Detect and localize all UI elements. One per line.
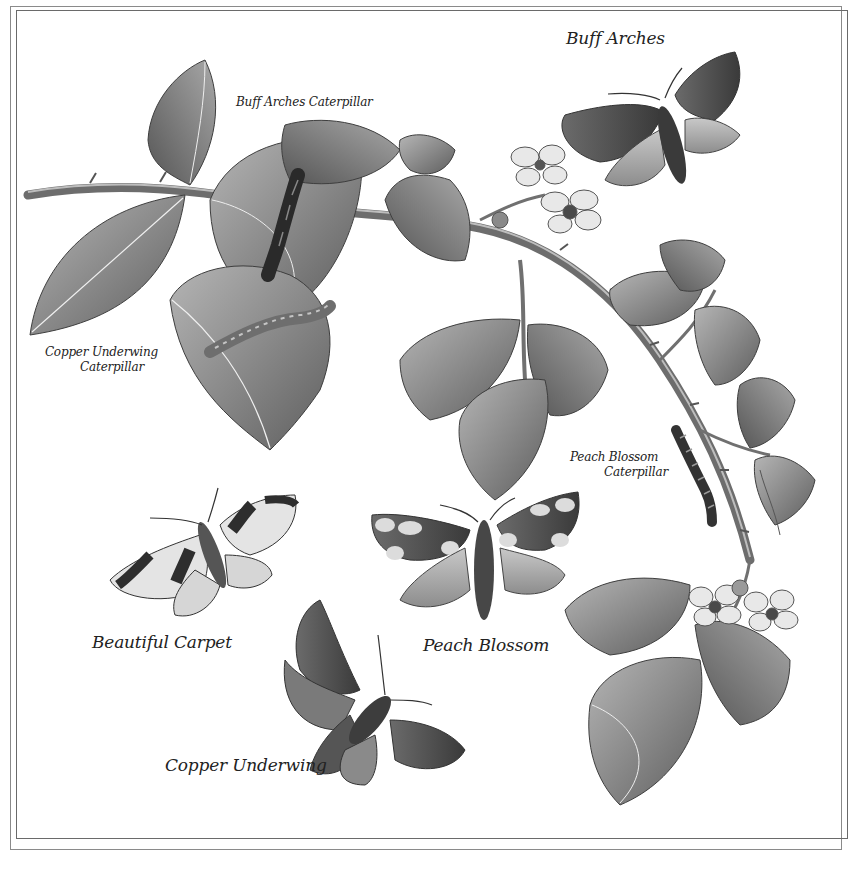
bramble-leaves — [30, 60, 815, 805]
peach-blossom-moth — [372, 492, 579, 620]
label-peach-blossom-caterpillar: Peach Blossom Caterpillar — [570, 450, 668, 480]
label-copper-underwing-caterpillar: Copper Underwing Caterpillar — [30, 345, 158, 375]
label-copper-underwing: Copper Underwing — [165, 755, 327, 775]
beautiful-carpet-moth — [110, 488, 296, 616]
label-copper-underwing-caterpillar-line1: Copper Underwing — [30, 345, 158, 360]
label-peach-blossom: Peach Blossom — [423, 635, 549, 655]
label-buff-arches: Buff Arches — [566, 28, 665, 48]
label-buff-arches-caterpillar: Buff Arches Caterpillar — [236, 95, 373, 110]
buff-arches-moth — [562, 52, 740, 186]
label-beautiful-carpet: Beautiful Carpet — [92, 632, 232, 652]
label-peach-blossom-caterpillar-line2: Caterpillar — [570, 465, 668, 480]
label-copper-underwing-caterpillar-line2: Caterpillar — [30, 360, 158, 375]
label-peach-blossom-caterpillar-line1: Peach Blossom — [570, 450, 668, 465]
